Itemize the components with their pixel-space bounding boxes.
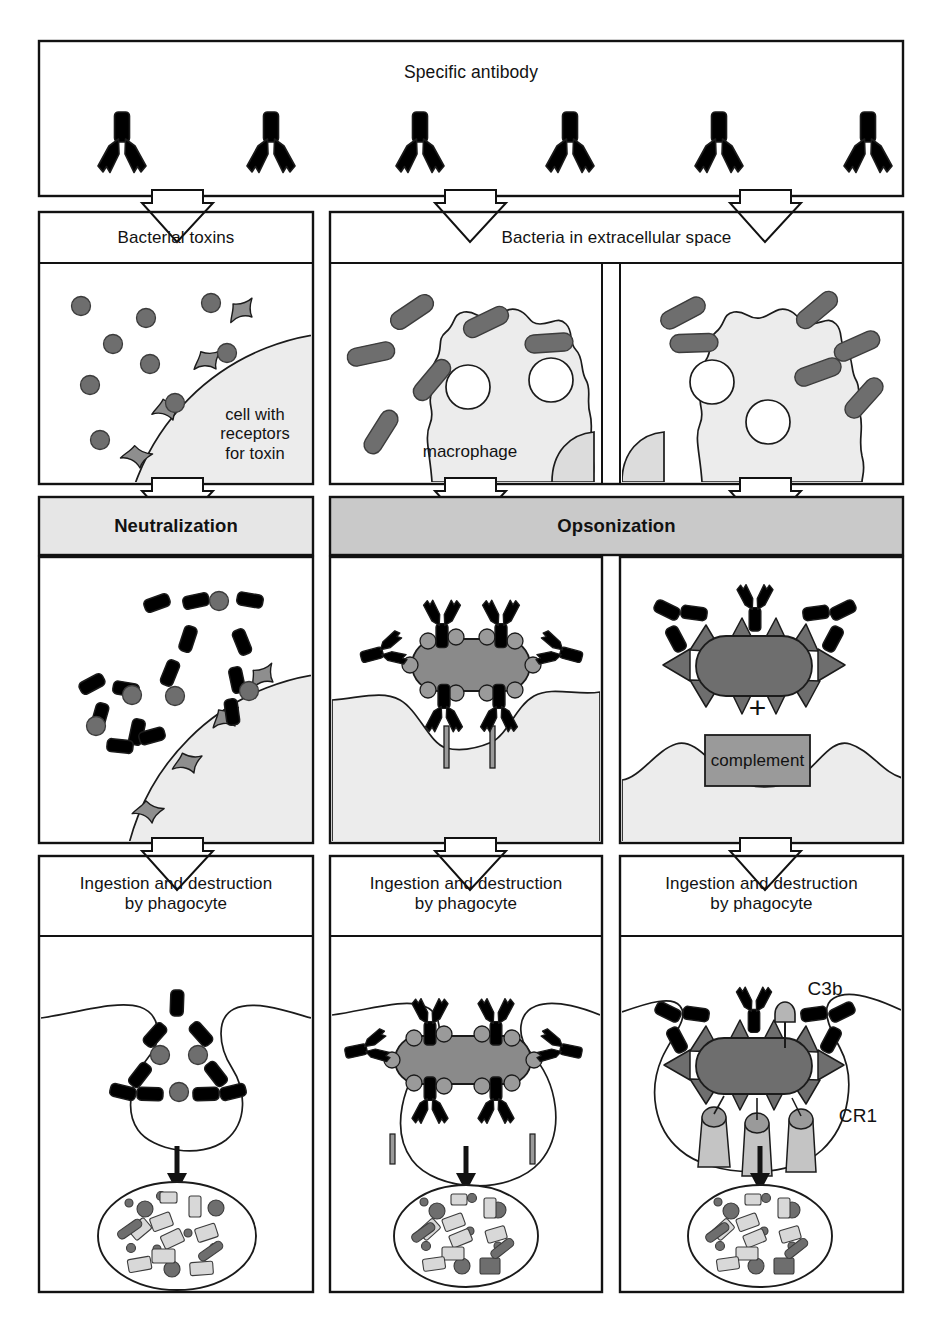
panel-phagocyte-right xyxy=(620,856,903,1292)
label-complement: complement xyxy=(705,751,810,771)
antibody-dark-3 xyxy=(695,112,743,173)
panel-phagocyte-center xyxy=(330,856,602,1292)
banner-label-neutralization: Neutralization xyxy=(39,515,313,537)
cr1-receptors xyxy=(698,1096,816,1176)
banner-label-opsonization: Opsonization xyxy=(330,515,903,537)
header-ingestion-center: Ingestion and destruction by phagocyte xyxy=(330,874,602,914)
figure-root: .fr { fill:none; stroke:#121212; stroke-… xyxy=(0,0,942,1334)
phagolysosome-center xyxy=(394,1185,538,1287)
phagolysosome-left xyxy=(98,1182,256,1290)
immune-complex-lower xyxy=(77,672,166,754)
plus-sign: + xyxy=(710,690,805,725)
toxin-bound-2 xyxy=(166,394,185,413)
antibody-dark-4 xyxy=(844,112,892,173)
panel-phagocyte-left xyxy=(39,856,313,1292)
header-ingestion-right: Ingestion and destruction by phagocyte xyxy=(620,874,903,914)
label-cr1: CR1 xyxy=(828,1105,888,1127)
neutralized-complex-ingested xyxy=(109,990,247,1102)
panel-bacteria-extracellular: macrophage xyxy=(330,212,903,484)
bacterium-ingested-right xyxy=(664,1020,844,1110)
macrophage-label-left: macrophage xyxy=(423,442,518,461)
panel-opsonized-bacterium xyxy=(330,557,602,843)
diagram-canvas: .fr { fill:none; stroke:#121212; stroke-… xyxy=(0,0,942,1334)
toxin-bound-1 xyxy=(218,344,237,363)
header-bacteria-extracellular: Bacteria in extracellular space xyxy=(330,228,903,248)
label-c3b: C3b xyxy=(795,978,855,1000)
phagolysosome-right xyxy=(688,1185,832,1287)
page-title-specific-antibody: Specific antibody xyxy=(39,62,903,83)
header-bacterial-toxins: Bacterial toxins xyxy=(39,228,313,248)
header-ingestion-left: Ingestion and destruction by phagocyte xyxy=(39,874,313,914)
antibody-light-2 xyxy=(247,112,295,173)
macrophage-right xyxy=(622,309,864,482)
phagocyte-cup-left xyxy=(41,1005,311,1151)
label-cell-with-receptors: cell with receptors for toxin xyxy=(195,405,315,463)
antibody-dark-1 xyxy=(396,112,444,173)
antibody-dark-2 xyxy=(546,112,594,173)
antibody-light-1 xyxy=(98,112,146,173)
